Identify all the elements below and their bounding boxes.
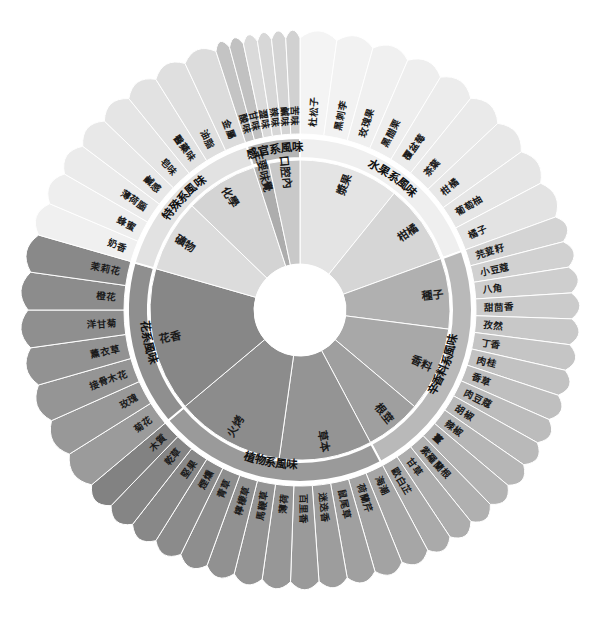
flavor-wheel-svg: 漿果杜松子黑刺李玫瑰果黑醋栗覆盆莓柑橘茶葉柑橘葡萄柚橘子水果系風味種子芫荽籽小豆… (0, 0, 600, 619)
outer-flavor-label: 鹹味 (279, 106, 292, 127)
center-hub (254, 264, 346, 356)
outer-flavor-label: 橙花 (96, 290, 117, 302)
outer-flavor-label: 孜然 (483, 319, 504, 332)
outer-flavor-label: 百里香 (298, 494, 310, 524)
outer-flavor-label: 杜松子 (307, 96, 320, 127)
inner-subgroup-label: 種子 (420, 287, 443, 303)
outer-flavor-label: 甜茴香 (484, 301, 514, 312)
outer-flavor-label: 苦味 (289, 106, 301, 126)
flavor-wheel-diagram: 漿果杜松子黑刺李玫瑰果黑醋栗覆盆莓柑橘茶葉柑橘葡萄柚橘子水果系風味種子芫荽籽小豆… (0, 0, 600, 619)
outer-flavor-label: 洋甘菊 (86, 317, 117, 330)
outer-flavor-label: 八角 (481, 282, 503, 295)
outer-flavor-label: 薄荷 (277, 493, 290, 515)
